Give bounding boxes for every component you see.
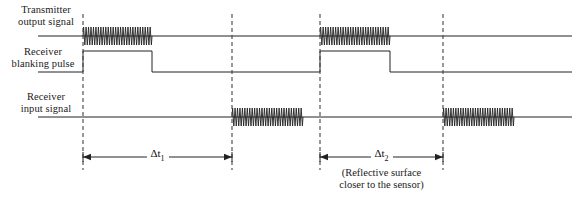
transmitter-row-label: Transmitter output signal: [8, 4, 84, 28]
receiver-label-line1: Receiver: [8, 91, 84, 103]
receiver-row-label: Receiver input signal: [8, 91, 84, 115]
diagram-canvas: [0, 0, 580, 200]
receiver-burst-1: [232, 108, 303, 126]
timing-diagram-figure: Transmitter output signal Receiver blank…: [0, 0, 580, 200]
receiver-label-line2: input signal: [8, 103, 84, 115]
receiver-burst-2: [443, 108, 514, 126]
delta-t2-subscript: 2: [385, 154, 389, 163]
transmitter-label-line2: output signal: [8, 16, 84, 28]
blanking-label-line2: blanking pulse: [2, 58, 84, 70]
blanking-row-label: Receiver blanking pulse: [2, 46, 84, 70]
delta-t1-subscript: 1: [161, 154, 165, 163]
delta-t1-symbol: Δt: [150, 147, 160, 159]
delta-t1-label: Δt1: [146, 147, 168, 164]
note-line1: (Reflective surface: [302, 167, 462, 179]
delta-t2-symbol: Δt: [374, 147, 384, 159]
reflective-surface-note: (Reflective surface closer to the sensor…: [302, 167, 462, 192]
blanking-label-line1: Receiver: [2, 46, 84, 58]
arrowhead-left-delta-t1: [83, 154, 91, 160]
transmitter-label-line1: Transmitter: [8, 4, 84, 16]
note-line2: closer to the sensor): [302, 179, 462, 191]
delta-t2-label: Δt2: [370, 147, 392, 164]
arrowhead-right-delta-t2: [435, 154, 443, 160]
arrowhead-left-delta-t2: [320, 154, 328, 160]
arrowhead-right-delta-t1: [224, 154, 232, 160]
blanking-pulse-waveform: [38, 51, 572, 72]
